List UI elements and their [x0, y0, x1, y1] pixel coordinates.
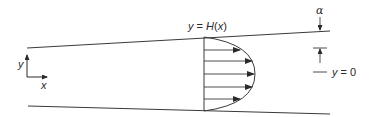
x-axis-label: x: [40, 79, 47, 91]
lower-wall: [28, 106, 330, 114]
upper-wall: [27, 31, 330, 48]
alpha-label: α: [316, 4, 324, 17]
velocity-profile: [204, 37, 255, 111]
centerline-label: y = 0: [331, 66, 356, 78]
channel-flow-diagram: y = H(x) α y = 0 y x: [0, 0, 372, 117]
y-axis-label: y: [17, 58, 25, 70]
upper-wall-label: y = H(x): [187, 20, 227, 32]
coordinate-axes: y x: [17, 55, 47, 91]
